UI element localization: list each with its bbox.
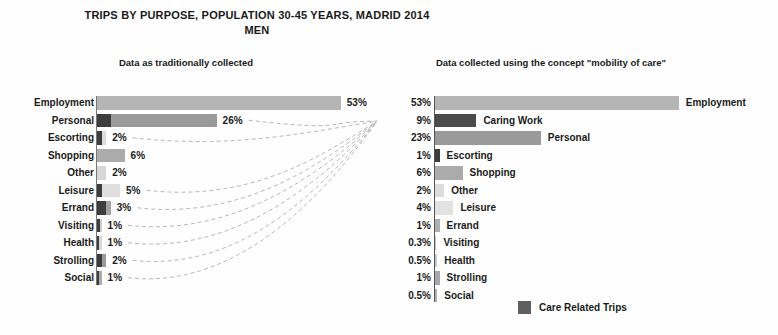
category-label-employment: Employment: [0, 96, 94, 110]
bar-strolling: [102, 254, 107, 268]
bar-shopping: [435, 166, 463, 180]
left-chart-axis: [96, 96, 97, 285]
value-label-health: 1%: [108, 236, 122, 250]
bar-other: [97, 166, 106, 180]
bar-row-strolling: Strolling2%: [0, 254, 389, 268]
category-label-social: Social: [0, 271, 94, 285]
trips-by-purpose-figure: TRIPS BY PURPOSE, POPULATION 30-45 YEARS…: [0, 0, 778, 335]
chart-subtitle-men: MEN: [0, 23, 514, 38]
bar-escorting: [102, 131, 107, 145]
category-label-visiting: Visiting: [0, 219, 94, 233]
bar-row-other: Other2%: [0, 166, 389, 180]
value-label-errand: 1%: [389, 219, 431, 233]
category-label-escorting: Escorting: [447, 149, 493, 163]
bar-errand: [106, 201, 111, 215]
category-label-escorting: Escorting: [0, 131, 94, 145]
bar-row-employment: Employment53%: [0, 96, 389, 110]
value-label-other: 2%: [112, 166, 126, 180]
bar-row-errand: 1%Errand: [389, 219, 778, 233]
bar-row-social: 0.5%Social: [389, 289, 778, 303]
care-related-trips-legend: Care Related Trips: [518, 301, 627, 314]
legend-care-swatch: [518, 301, 531, 314]
value-label-social: 0.5%: [389, 289, 431, 303]
right-chart-axis: [434, 96, 436, 302]
bar-other: [435, 184, 444, 198]
mobility-of-care-chart-panel: 53%Employment9%Caring Work23%Personal1%E…: [389, 96, 778, 308]
value-label-visiting: 0.3%: [389, 236, 431, 250]
traditional-chart-heading: Data as traditionally collected: [0, 57, 372, 68]
value-label-shopping: 6%: [131, 149, 145, 163]
chart-title: TRIPS BY PURPOSE, POPULATION 30-45 YEARS…: [0, 8, 514, 23]
category-label-strolling: Strolling: [0, 254, 94, 268]
bar-row-strolling: 1%Strolling: [389, 271, 778, 285]
bar-visiting: [100, 219, 101, 233]
bar-personal: [435, 131, 541, 145]
category-label-other: Other: [451, 184, 478, 198]
bar-leisure: [102, 184, 120, 198]
legend-care-label: Care Related Trips: [539, 302, 627, 313]
bar-row-health: Health1%: [0, 236, 389, 250]
bar-leisure: [435, 201, 453, 215]
bar-health: [99, 236, 101, 250]
bar-row-shopping: 6%Shopping: [389, 166, 778, 180]
bar-row-personal: Personal26%: [0, 114, 389, 128]
value-label-strolling: 2%: [112, 254, 126, 268]
bar-strolling: [435, 271, 440, 285]
value-label-health: 0.5%: [389, 254, 431, 268]
category-label-visiting: Visiting: [443, 236, 479, 250]
bar-visiting: [435, 236, 436, 250]
category-label-other: Other: [0, 166, 94, 180]
value-label-employment: 53%: [389, 96, 431, 110]
value-label-strolling: 1%: [389, 271, 431, 285]
category-label-health: Health: [444, 254, 475, 268]
chart-title-block: TRIPS BY PURPOSE, POPULATION 30-45 YEARS…: [0, 8, 514, 38]
care-segment-errand: [97, 201, 106, 215]
category-label-leisure: Leisure: [460, 201, 496, 215]
value-label-visiting: 1%: [108, 219, 122, 233]
bar-row-social: Social1%: [0, 271, 389, 285]
category-label-health: Health: [0, 236, 94, 250]
bar-row-escorting: 1%Escorting: [389, 149, 778, 163]
bar-row-visiting: Visiting1%: [0, 219, 389, 233]
care-segment-personal: [97, 114, 111, 128]
value-label-escorting: 1%: [389, 149, 431, 163]
category-label-personal: Personal: [0, 114, 94, 128]
category-label-caring-work: Caring Work: [483, 114, 542, 128]
bar-row-escorting: Escorting2%: [0, 131, 389, 145]
value-label-caring-work: 9%: [389, 114, 431, 128]
category-label-errand: Errand: [447, 219, 479, 233]
bar-errand: [435, 219, 440, 233]
value-label-other: 2%: [389, 184, 431, 198]
mobility-of-care-chart-heading: Data collected using the concept "mobili…: [389, 57, 713, 68]
value-label-shopping: 6%: [389, 166, 431, 180]
value-label-employment: 53%: [347, 96, 367, 110]
value-label-leisure: 5%: [126, 184, 140, 198]
bar-personal: [111, 114, 217, 128]
bar-social: [99, 271, 101, 285]
bar-row-employment: 53%Employment: [389, 96, 778, 110]
value-label-errand: 3%: [117, 201, 131, 215]
bar-row-personal: 23%Personal: [389, 131, 778, 145]
bar-row-leisure: Leisure5%: [0, 184, 389, 198]
bar-employment: [435, 96, 679, 110]
traditional-chart-panel: Employment53%Personal26%Escorting2%Shopp…: [0, 96, 389, 292]
value-label-personal: 23%: [389, 131, 431, 145]
bar-row-other: 2%Other: [389, 184, 778, 198]
bar-caring-work: [435, 114, 476, 128]
category-label-shopping: Shopping: [0, 149, 94, 163]
bar-row-leisure: 4%Leisure: [389, 201, 778, 215]
bar-row-errand: Errand3%: [0, 201, 389, 215]
category-label-leisure: Leisure: [0, 184, 94, 198]
category-label-employment: Employment: [686, 96, 746, 110]
bar-escorting: [435, 149, 440, 163]
category-label-shopping: Shopping: [470, 166, 516, 180]
bar-employment: [97, 96, 341, 110]
bar-row-visiting: 0.3%Visiting: [389, 236, 778, 250]
value-label-escorting: 2%: [112, 131, 126, 145]
bar-row-shopping: Shopping6%: [0, 149, 389, 163]
value-label-social: 1%: [108, 271, 122, 285]
category-label-personal: Personal: [548, 131, 590, 145]
category-label-errand: Errand: [0, 201, 94, 215]
bar-shopping: [97, 149, 125, 163]
bar-row-caring-work: 9%Caring Work: [389, 114, 778, 128]
